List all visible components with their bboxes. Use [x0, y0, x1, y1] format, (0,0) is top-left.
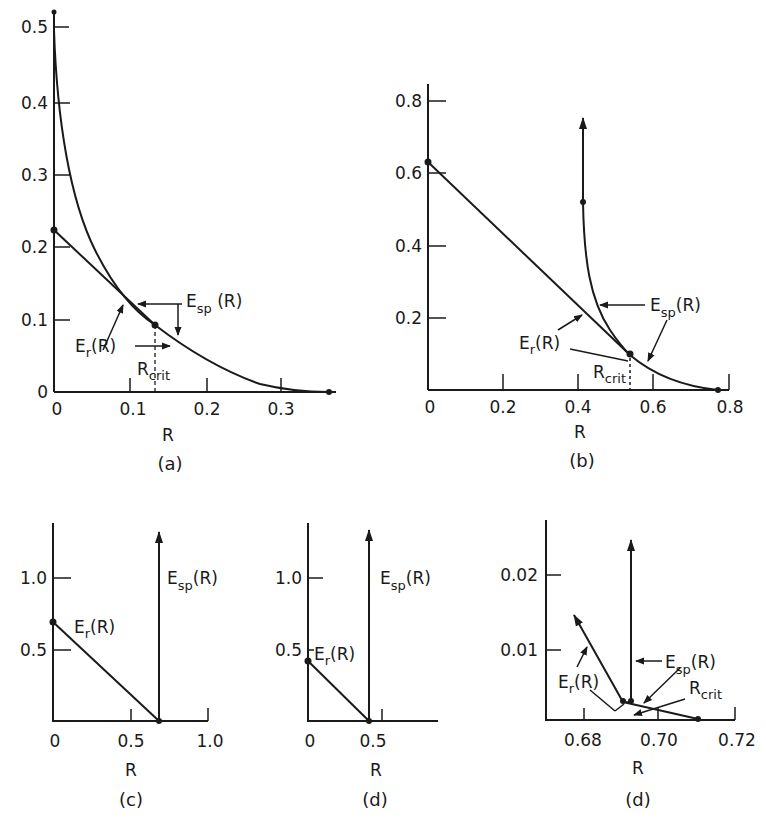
y-tick-label: 0.4: [395, 236, 422, 256]
y-tick-label: 0.02: [500, 565, 538, 585]
rcrit-label: Rcrit: [593, 362, 626, 386]
x-tick-label: 0.72: [718, 730, 756, 750]
x-tick-label: 0.8: [716, 397, 743, 417]
panel-e: 0.02 0.01 0.68 0.70 0.72 R (d) Esp(R) Er…: [500, 520, 756, 810]
esp-label: Esp(R): [665, 652, 716, 677]
er-label: Er(R): [74, 617, 115, 641]
y-tick-label: 0.2: [21, 237, 48, 257]
esp-label: Esp(R): [380, 568, 431, 593]
panel-caption: (d): [362, 789, 387, 810]
y-tick-label: 0.8: [395, 91, 422, 111]
x-tick-label: 0: [305, 731, 316, 751]
x-axis-label: R: [370, 760, 382, 780]
x-tick-label: 0: [50, 731, 61, 751]
x-axis-label: R: [574, 422, 586, 442]
esp-label: Esp (R): [186, 291, 242, 316]
y-tick-label: 0.5: [275, 640, 302, 660]
x-tick-label: 0.5: [117, 731, 144, 751]
x-tick-label: 0.3: [267, 399, 294, 419]
panel-b: 0.8 0.6 0.4 0.2 0 0.2 0.4 0.6 0.8 R (b) …: [395, 84, 744, 471]
er-line: [308, 661, 369, 721]
y-tick-label: 1.0: [20, 568, 47, 588]
x-tick-label: 0.1: [119, 399, 146, 419]
panel-caption: (d): [625, 789, 650, 810]
x-axis-label: R: [162, 425, 174, 445]
y-tick-label: 0.01: [500, 640, 538, 660]
panel-caption: (b): [569, 450, 594, 471]
x-tick-label: 0.70: [640, 730, 678, 750]
panel-d: 1.0 0.5 0 0.5 R (d) Esp(R) Er(R): [275, 523, 438, 810]
x-tick-label: 0.68: [564, 730, 602, 750]
x-tick-label: 0.6: [639, 397, 666, 417]
er-line-tail: [623, 702, 698, 719]
y-tick-label: 0.1: [21, 310, 48, 330]
x-tick-label: 0.2: [193, 399, 220, 419]
y-tick-label: 0.5: [21, 17, 48, 37]
x-tick-label: 0: [52, 399, 63, 419]
panel-a: 0.5 0.4 0.3 0.2 0.1 0 0 0.1 0.2 0.3 R (a…: [21, 10, 336, 475]
x-tick-label: 0.2: [489, 397, 516, 417]
rcrit-label: Rcrit: [137, 359, 170, 383]
rcrit-label: Rcrit: [689, 678, 722, 702]
panel-c: 1.0 0.5 0 0.5 1.0 R (c) Esp(R) Er(R): [20, 523, 224, 810]
x-tick-label: 0.4: [564, 397, 591, 417]
y-tick-label: 0.6: [395, 163, 422, 183]
panel-caption: (a): [157, 453, 182, 474]
esp-label: Esp(R): [167, 568, 218, 593]
y-tick-label: 0: [37, 382, 48, 402]
panel-caption: (c): [119, 789, 143, 810]
esp-label: Esp(R): [650, 295, 701, 320]
x-axis-label: R: [125, 760, 137, 780]
figure: 0.5 0.4 0.3 0.2 0.1 0 0 0.1 0.2 0.3 R (a…: [0, 0, 766, 822]
y-tick-label: 0.2: [395, 308, 422, 328]
er-label: Er(R): [314, 644, 355, 668]
y-tick-label: 0.5: [20, 640, 47, 660]
er-label: Er(R): [519, 333, 560, 357]
x-tick-label: 0.5: [359, 731, 386, 751]
x-tick-label: 1.0: [196, 731, 223, 751]
y-tick-label: 0.3: [21, 165, 48, 185]
er-line: [54, 230, 155, 325]
y-tick-label: 1.0: [275, 568, 302, 588]
er-label: Er(R): [75, 336, 116, 360]
x-tick-label: 0: [425, 397, 436, 417]
x-axis-label: R: [632, 758, 644, 778]
er-line: [428, 162, 630, 355]
y-tick-label: 0.4: [21, 93, 48, 113]
